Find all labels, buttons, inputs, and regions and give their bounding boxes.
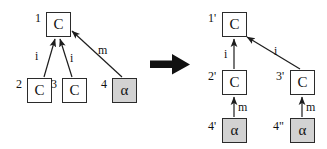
node-box-2p[interactable]: C — [222, 70, 247, 95]
diagram-canvas: C1C2C3α4 C1'C2'C3'α4'α4" iimiimm — [0, 0, 327, 149]
node-box-1p[interactable]: C — [222, 12, 247, 37]
node-box-4p[interactable]: α — [290, 118, 315, 143]
edge-label-m-4: m — [98, 44, 107, 56]
edge-label-i-2p: i — [224, 48, 227, 60]
left-graph-edges — [44, 31, 122, 77]
node-id-4p: 4" — [273, 120, 284, 132]
node-id-3: 3 — [51, 78, 57, 90]
edge-2-to-1 — [44, 39, 55, 77]
node-id-2p: 2' — [208, 70, 216, 82]
edge-label-i-3p: i — [274, 45, 277, 57]
node-id-3p: 3' — [276, 70, 284, 82]
node-box-1[interactable]: C — [46, 12, 71, 37]
edge-4-to-1 — [72, 31, 122, 77]
node-box-4[interactable]: α — [112, 78, 137, 103]
node-box-4p[interactable]: α — [222, 118, 247, 143]
node-id-4p: 4' — [208, 120, 216, 132]
node-box-3[interactable]: C — [62, 78, 87, 103]
rewrite-arrow — [150, 53, 190, 79]
node-box-2[interactable]: C — [27, 78, 52, 103]
node-id-1: 1 — [35, 12, 41, 24]
node-id-2: 2 — [16, 78, 22, 90]
node-id-1p: 1' — [208, 12, 216, 24]
edge-label-i-2: i — [35, 50, 38, 62]
node-box-3p[interactable]: C — [290, 70, 315, 95]
edge-label-i-3: i — [70, 52, 73, 64]
node-id-4: 4 — [101, 78, 107, 90]
edge-label-m-4p: m — [306, 101, 315, 113]
edge-label-m-4p: m — [238, 101, 247, 113]
